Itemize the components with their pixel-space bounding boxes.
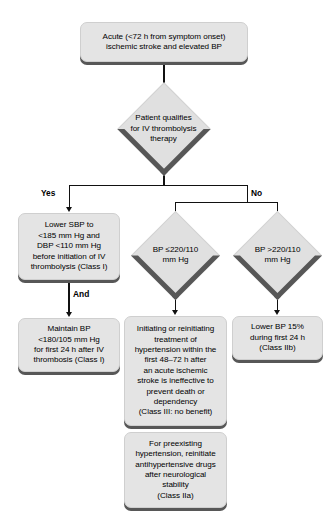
node-preexisting-label: For preexisting hypertension, reinitiate… — [135, 439, 215, 501]
node-lower-bp-15-label: Lower BP 15% during first 24 h (Class II… — [250, 322, 305, 353]
node-decision-bp-le-label: BP ≤220/110 mm Hg — [131, 219, 220, 291]
node-decision-thrombolysis: Patient qualifies for IV thrombolysis th… — [110, 91, 217, 167]
node-decision-thrombolysis-label: Patient qualifies for IV thrombolysis th… — [110, 91, 217, 167]
node-lower-sbp: Lower SBP to <185 mm Hg and DBP <110 mm … — [18, 213, 120, 280]
connector-no-split-bus — [175, 202, 278, 203]
arrowhead-yes — [66, 207, 72, 212]
connector-and — [68, 283, 69, 313]
node-start-label: Acute (<72 h from symptom onset) ischemi… — [103, 32, 226, 53]
node-decision-bp-gt-label: BP >220/110 mm Hg — [233, 219, 322, 291]
connector-yes-down — [69, 185, 70, 208]
node-decision-bp-le: BP ≤220/110 mm Hg — [131, 219, 220, 291]
arrowhead-bpgt — [274, 310, 280, 315]
connector-no-down — [247, 185, 248, 203]
edge-label-and: And — [73, 289, 89, 299]
node-lower-bp-15: Lower BP 15% during first 24 h (Class II… — [232, 316, 323, 360]
node-start: Acute (<72 h from symptom onset) ischemi… — [80, 22, 248, 62]
node-decision-bp-gt: BP >220/110 mm Hg — [233, 219, 322, 291]
edge-label-yes: Yes — [41, 188, 55, 198]
flowchart-canvas: Acute (<72 h from symptom onset) ischemi… — [0, 0, 327, 522]
arrowhead-and — [66, 312, 72, 317]
edge-label-no: No — [251, 188, 262, 198]
node-preexisting: For preexisting hypertension, reinitiate… — [124, 432, 227, 508]
node-maintain-bp: Maintain BP <180/105 mm Hg for first 24 … — [18, 318, 120, 372]
connector-split-bus — [69, 185, 248, 186]
node-maintain-bp-label: Maintain BP <180/105 mm Hg for first 24 … — [34, 324, 105, 366]
node-ineffective-label: Initiating or reinitiating treatment of … — [135, 324, 217, 418]
arrowhead-bple — [172, 310, 178, 315]
node-lower-sbp-label: Lower SBP to <185 mm Hg and DBP <110 mm … — [31, 220, 108, 272]
node-ineffective: Initiating or reinitiating treatment of … — [124, 316, 227, 426]
